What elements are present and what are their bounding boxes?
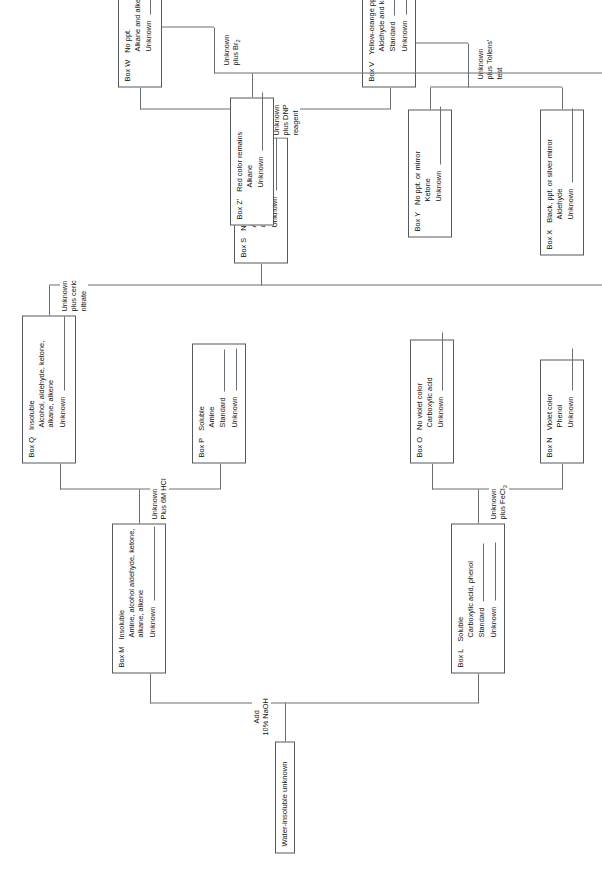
node-box-x: Box XBlack, ppt. or silver mirror Aldehy… [540, 109, 584, 255]
box-l-line3: Standard [477, 607, 486, 637]
box-w-id: Box W [123, 59, 133, 81]
box-w-blank [142, 0, 151, 14]
node-box-y: Box YNo ppt. or mirror Ketone Unknown [408, 109, 452, 237]
box-q-line3: alkane, alkene [46, 321, 56, 427]
box-o-blank [434, 332, 443, 390]
edge-br2-h [214, 27, 215, 73]
edge-label-fecl3: Unknown plus FeCl3 [489, 483, 509, 521]
edge-boxl-out [478, 489, 479, 523]
node-box-v: Box VYellow-orange ppt. Aldehyde and ket… [362, 0, 416, 87]
box-v-line4: Unknown [400, 20, 409, 51]
edge-label-br2: Unknown plus Br2 [222, 32, 242, 67]
edge-br2-down [162, 26, 214, 27]
box-y-line2: Ketone [423, 115, 433, 201]
box-n-blank [564, 348, 573, 390]
root-node-water-insoluble-unknown: Water-insoluble unknown [275, 741, 295, 853]
box-w-line2: Alkane and alkene [133, 0, 143, 51]
box-m-line2: Amine, alcohol aldehyde, ketone, [127, 529, 137, 637]
box-v-blank2 [398, 0, 407, 14]
node-box-w: Box WNo ppt. Alkane and alkene Unknown [118, 0, 162, 87]
box-v-blank1 [386, 0, 395, 15]
box-zp-blank [254, 92, 263, 150]
box-q-line4: Unknown [58, 396, 67, 427]
box-p-line1: Soluble [197, 406, 206, 431]
edge-boxq-out [49, 285, 50, 315]
edge-label-tollens: Unknown plus Tollens' test [476, 37, 504, 81]
edge-root-down [285, 702, 478, 703]
box-y-line3: Unknown [434, 170, 443, 201]
box-l-line1: Soluble [456, 616, 465, 641]
box-v-line1: Yellow-orange ppt. [367, 0, 376, 54]
box-v-id: Box V [367, 61, 377, 81]
edge-br2-long-v [214, 72, 602, 73]
box-x-line3: Unknown [566, 188, 575, 219]
edge-label-hcl: Unknown Plus 6M HCl [150, 476, 169, 521]
box-n-line3: Unknown [566, 396, 575, 427]
box-n-line2: Phenol [555, 365, 565, 427]
box-x-blank [564, 108, 573, 182]
edge-to-boxM [150, 673, 151, 703]
box-q-line1: Insoluble [27, 400, 36, 430]
box-o-id: Box O [415, 436, 425, 457]
box-v-line3: Standard [388, 21, 397, 51]
edge-q-to-r-vert [261, 284, 602, 285]
box-q-blank [56, 316, 65, 390]
box-l-line4: Unknown [489, 606, 498, 637]
edge-to-boxp [220, 463, 221, 489]
box-w-line1: No ppt. [123, 28, 132, 52]
edge-boxm-split [60, 488, 220, 489]
edge-label-dnp: Unknown plus DNP reagent [272, 102, 300, 137]
box-l-blank1 [475, 543, 484, 601]
box-x-line2: Aldehyde [555, 115, 565, 219]
box-s-id: Box S [239, 237, 249, 257]
node-box-z-prime: Box Z'Red color remains Alkane Unknown [230, 97, 274, 225]
box-zp-line3: Unknown [256, 156, 265, 187]
edge-boxm-out [139, 489, 140, 523]
box-y-line1: No ppt. or mirror [413, 151, 422, 205]
edge-label-ceric: Unknown plus ceric nitrate [60, 278, 88, 313]
box-q-id: Box Q [27, 436, 37, 457]
edge-to-boxs [261, 263, 262, 285]
edge-to-boxq [60, 463, 61, 489]
box-m-blank [146, 526, 155, 600]
box-o-line1: No violet color [415, 383, 424, 430]
node-box-q: Box QInsoluble Alcohol, aldehyde, ketone… [22, 315, 76, 463]
box-p-blank2 [228, 348, 237, 390]
node-box-o: Box ONo violet color Carboxylic acid Unk… [410, 339, 454, 463]
box-zp-id: Box Z' [235, 198, 245, 219]
box-y-blank [432, 106, 441, 164]
node-box-m: Box MInsoluble Amine, alcohol aldehyde, … [112, 523, 166, 673]
edge-to-boxL [478, 673, 479, 703]
box-o-line2: Carboxylic acid [425, 345, 435, 427]
edge-to-boxy [430, 87, 431, 109]
edge-to-boxzp [252, 73, 253, 97]
box-l-line2: Carboxylic acid, phenol [466, 529, 476, 637]
box-m-line1: Insoluble [117, 609, 126, 639]
box-w-line3: Unknown [144, 20, 153, 51]
box-p-line4: Unknown [230, 396, 239, 427]
flowchart-canvas: Water-insoluble unknown Add 10% NaOH Box… [0, 0, 602, 873]
edge-root-out [285, 703, 286, 741]
box-y-id: Box Y [413, 211, 423, 231]
edge-to-boxx [562, 87, 563, 109]
box-p-blank1 [216, 349, 225, 391]
box-n-line1: Violet color [545, 393, 554, 429]
edge-to-boxv [390, 87, 391, 109]
edge-label-naoh: Add 10% NaOH [252, 696, 271, 737]
box-l-blank2 [487, 542, 496, 600]
box-n-id: Box N [545, 437, 555, 457]
root-label: Water-insoluble unknown [280, 761, 289, 846]
edge-to-boxn [562, 463, 563, 489]
box-l-id: Box L [456, 648, 466, 667]
edge-to-boxo [432, 463, 433, 489]
box-p-id: Box P [197, 437, 207, 457]
box-p-line2: Amine [207, 349, 217, 427]
edge-tollens-h [468, 43, 469, 87]
box-p-line3: Standard [218, 397, 227, 427]
box-zp-line2: Alkane [245, 103, 255, 187]
box-m-id: Box M [117, 646, 127, 667]
box-v-line2: Aldehyde and ketone [377, 0, 387, 51]
node-box-l: Box LSoluble Carboxylic acid, phenol Sta… [451, 523, 505, 673]
node-box-n: Box NViolet color Phenol Unknown [540, 359, 584, 463]
box-x-id: Box X [545, 229, 555, 249]
